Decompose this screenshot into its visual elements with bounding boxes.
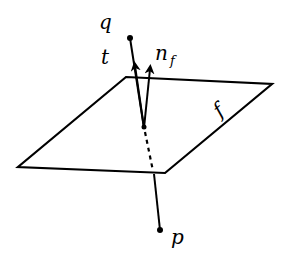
diagram-svg: q t n f f p: [0, 0, 290, 268]
point-p: [157, 227, 163, 233]
label-n-subscript: f: [169, 53, 177, 68]
diagram-canvas: q t n f f p: [0, 0, 290, 268]
label-plane-f: f: [206, 96, 231, 123]
point-intersection: [142, 125, 147, 130]
vector-t-arrow: [135, 66, 144, 128]
point-q: [127, 35, 133, 41]
label-p: p: [171, 225, 184, 249]
label-q: q: [99, 10, 112, 34]
segment-hidden-dashed: [145, 132, 153, 171]
label-n: n: [155, 41, 168, 65]
segment-plane-to-p: [154, 174, 160, 230]
label-t: t: [101, 45, 110, 69]
